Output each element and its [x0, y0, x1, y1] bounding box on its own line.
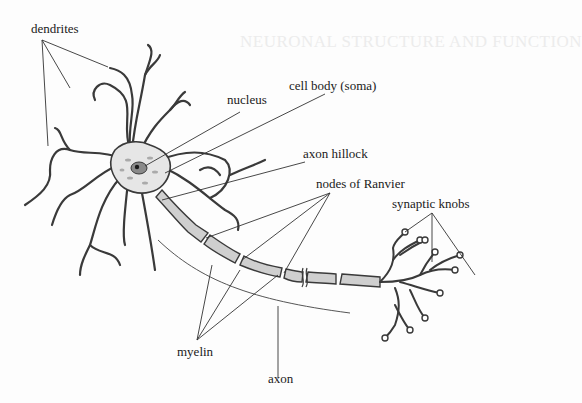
nucleus-shape — [131, 162, 147, 174]
label-nodes-of-ranvier: nodes of Ranvier — [316, 177, 405, 190]
label-myelin: myelin — [177, 345, 213, 358]
label-synaptic-knobs: synaptic knobs — [392, 197, 470, 210]
label-cell-body: cell body (soma) — [289, 79, 376, 92]
label-axon: axon — [268, 372, 293, 385]
label-dendrites: dendrites — [31, 22, 79, 35]
label-nucleus: nucleus — [227, 93, 267, 106]
label-axon-hillock: axon hillock — [303, 147, 368, 160]
